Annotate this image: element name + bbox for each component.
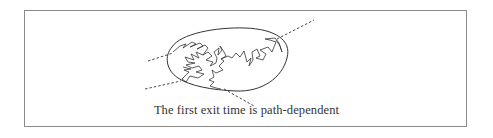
figure-caption: The first exit time is path-dependent xyxy=(0,103,493,118)
brownian-path xyxy=(173,38,282,89)
exit-line-lower-left xyxy=(145,81,181,89)
exit-line-upper-left xyxy=(148,53,173,61)
exit-line-upper-right xyxy=(277,20,314,39)
